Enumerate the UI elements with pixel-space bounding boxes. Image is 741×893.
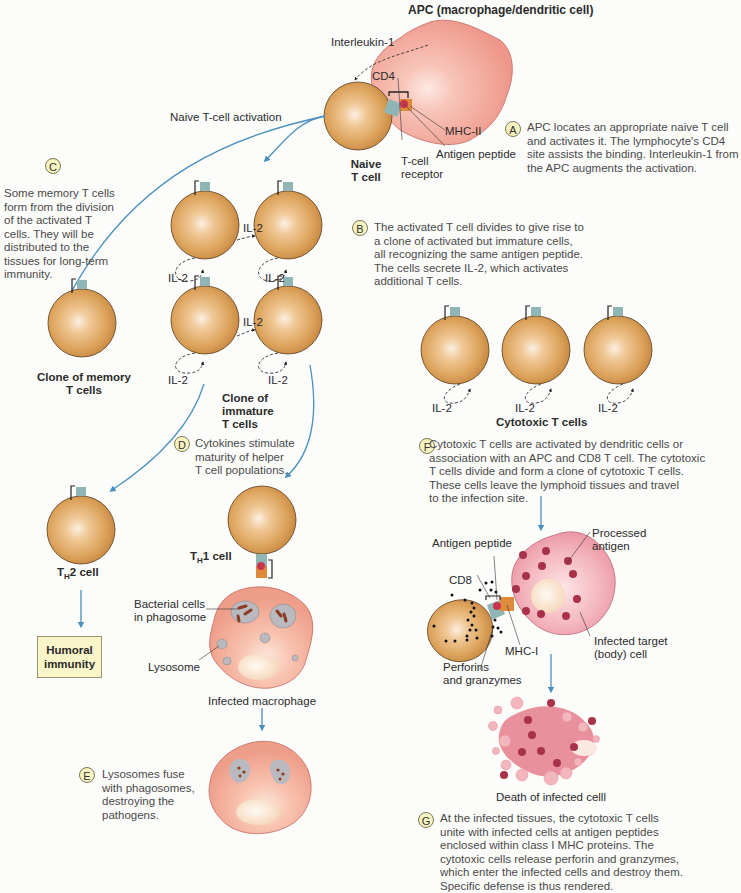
label-il2: IL-2 [268, 374, 288, 387]
note-g-line: Specific defense is thus rendered. [440, 880, 683, 893]
label-naive-activation: Naive T-cell activation [170, 111, 282, 124]
label-processed-1: Processed [592, 527, 646, 540]
note-c-line: distributed to the [4, 241, 115, 255]
label-processed-2: antigen [592, 540, 630, 553]
note-b-line: a clone of activated but immature cells, [374, 235, 584, 249]
label-cytotoxic-t-cells: Cytotoxic T cells [496, 416, 587, 429]
label-mhc-i: MHC-I [505, 645, 538, 658]
note-g-line: which enter the infected cells and destr… [440, 866, 683, 880]
label-naive-1: Naive [348, 158, 384, 171]
destroyed-macrophage [209, 741, 311, 833]
dead-cell-debris [489, 697, 600, 785]
label-mhc-ii: MHC-II [445, 125, 481, 138]
note-f: Cytotoxic T cells are activated by dendr… [429, 438, 705, 506]
infected-macrophage [210, 587, 313, 688]
label-tcell-receptor-1: T-cell [401, 155, 428, 168]
label-cd8: CD8 [449, 574, 472, 587]
note-a-line: the APC augments the activation. [527, 162, 739, 176]
note-g-line: cytotoxic cells release perforin and gra… [440, 853, 683, 867]
note-e: Lysosomes fuse with phagosomes, destroyi… [102, 768, 195, 822]
label-il2: IL-2 [243, 316, 263, 329]
label-infected-macrophage: Infected macrophage [208, 695, 316, 708]
note-d: Cytokines stimulate maturity of helper T… [195, 437, 295, 478]
label-perforins-1: Perforins [443, 661, 489, 674]
note-f-line: to the infection site. [429, 492, 705, 506]
note-b-line: all recognizing the same antigen peptide… [374, 248, 584, 262]
label-antigen-peptide-f: Antigen peptide [432, 537, 512, 550]
note-c-line: cells. They will be [4, 228, 115, 242]
note-a: APC locates an appropriate naive T cell … [527, 121, 739, 175]
badge-a: A [505, 121, 521, 137]
note-e-line: Lysosomes fuse [102, 768, 195, 782]
note-a-line: site assists the binding. Interleukin-1 … [527, 148, 739, 162]
label-clone-immature-3: T cells [222, 418, 258, 431]
badge-c: C [45, 158, 61, 174]
label-clone-memory-2: T cells [34, 384, 134, 397]
label-bacterial-1: Bacterial cells [134, 598, 205, 611]
note-c: Some memory T cells form from the divisi… [4, 187, 115, 282]
note-c-line: Some memory T cells [4, 187, 115, 201]
label-tcell-receptor-2: receptor [401, 168, 443, 181]
note-f-line: association with an APC and CD8 T cell. … [429, 452, 705, 466]
apc-title: APC (macrophage/dendritic cell) [408, 4, 593, 17]
label-il2: IL-2 [243, 222, 263, 235]
note-b: The activated T cell divides to give ris… [374, 221, 584, 289]
note-e-line: pathogens. [102, 809, 195, 823]
badge-b: B [352, 220, 368, 236]
note-f-line: Cytotoxic T cells are activated by dendr… [429, 438, 705, 452]
note-a-line: and activates it. The lymphocyte's CD4 [527, 135, 739, 149]
humoral-line: Humoral [38, 643, 101, 657]
note-g-line: enclosed within class I MHC proteins. Th… [440, 839, 683, 853]
note-d-line: Cytokines stimulate [195, 437, 295, 451]
note-c-line: of the activated T [4, 214, 115, 228]
label-infected-target-2: (body) cell [594, 648, 647, 661]
note-f-line: T cells divide and form a clone of cytot… [429, 465, 705, 479]
note-b-line: The cells secrete IL-2, which activates [374, 262, 584, 276]
label-infected-target-1: Infected target [594, 635, 668, 648]
label-interleukin-1: Interleukin-1 [331, 36, 394, 49]
label-th1-cell: TH1 cell [190, 550, 232, 567]
note-b-line: The activated T cell divides to give ris… [374, 221, 584, 235]
label-clone-memory-1: Clone of memory [34, 371, 134, 384]
note-g: At the infected tissues, the cytotoxic T… [440, 812, 683, 893]
label-clone-immature-1: Clone of [222, 392, 268, 405]
badge-e: E [79, 767, 95, 783]
arrow-to-th2 [112, 384, 204, 490]
label-il2: IL-2 [168, 272, 188, 285]
label-th2-cell: TH2 cell [57, 566, 99, 583]
label-perforins-2: and granzymes [443, 674, 522, 687]
label-naive-2: T cell [346, 171, 386, 184]
label-il2: IL-2 [432, 402, 452, 415]
label-death: Death of infected celll [496, 791, 606, 804]
label-il2: IL-2 [265, 272, 285, 285]
label-lysosome: Lysosome [148, 661, 200, 674]
th1-connection [256, 554, 272, 578]
note-c-line: form from the division [4, 201, 115, 215]
note-g-line: unite with infected cells at antigen pep… [440, 826, 683, 840]
note-c-line: immunity. [4, 268, 115, 282]
label-antigen-peptide: Antigen peptide [436, 148, 516, 161]
label-clone-immature-2: immature [222, 405, 274, 418]
badge-g: G [418, 812, 434, 828]
note-a-line: APC locates an appropriate naive T cell [527, 121, 739, 135]
label-bacterial-2: in phagosome [134, 611, 206, 624]
humoral-line: immunity [38, 657, 101, 671]
note-b-line: additional T cells. [374, 275, 584, 289]
label-il2: IL-2 [598, 402, 618, 415]
note-c-line: tissues for long-term [4, 255, 115, 269]
note-g-line: At the infected tissues, the cytotoxic T… [440, 812, 683, 826]
label-il2: IL-2 [515, 402, 535, 415]
label-il2: IL-2 [168, 374, 188, 387]
humoral-immunity-box: Humoral immunity [37, 636, 102, 678]
cytotoxic-attacking-cell [428, 581, 514, 662]
note-d-line: T cell populations. [195, 464, 295, 478]
note-d-line: maturity of helper [195, 451, 295, 465]
badge-d: D [174, 436, 190, 452]
note-f-line: These cells leave the lymphoid tissues a… [429, 479, 705, 493]
label-cd4: CD4 [372, 70, 395, 83]
note-e-line: destroying the [102, 795, 195, 809]
note-e-line: with phagosomes, [102, 782, 195, 796]
